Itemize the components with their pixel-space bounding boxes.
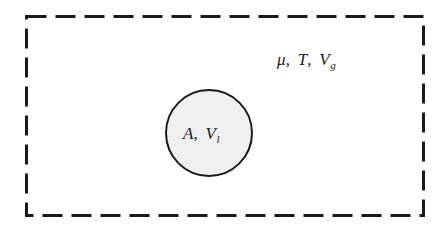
diagram-figure [0,0,443,232]
gas-symbol-volume-subscript: g [330,59,336,71]
liquid-phase-label: A, Vl [183,125,220,145]
gas-label-separator-1: , [286,50,293,69]
liquid-label-separator-1: , [194,124,201,143]
gas-symbol-mu: μ [277,50,286,69]
gas-symbol-temperature: T [298,50,308,69]
liquid-symbol-volume: V [206,124,217,143]
liquid-symbol-area: A [183,124,194,143]
gas-symbol-volume: V [319,50,330,69]
gas-label-separator-2: , [307,50,314,69]
gas-phase-label: μ, T, Vg [277,51,336,71]
liquid-symbol-volume-subscript: l [216,133,219,145]
diagram-canvas: μ, T, Vg A, Vl [0,0,443,232]
